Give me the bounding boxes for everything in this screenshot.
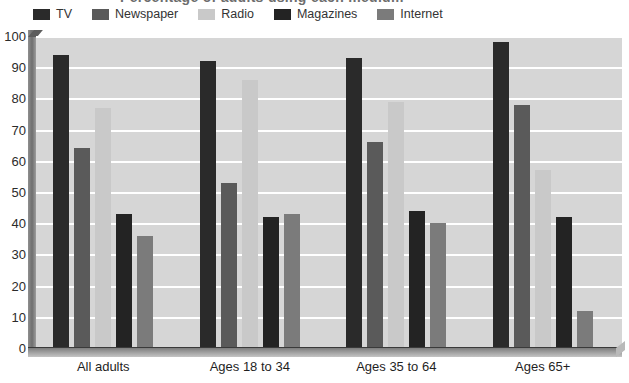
x-tick-label: Ages 35 to 64 (356, 360, 436, 373)
bar-group (476, 36, 623, 348)
bar-tv-ages-65-[interactable] (493, 42, 509, 348)
legend-label: Magazines (297, 8, 357, 21)
legend-label: Radio (221, 8, 254, 21)
legend-swatch-icon (198, 9, 215, 20)
legend-item-radio[interactable]: Radio (198, 8, 254, 21)
chart-legend: TVNewspaperRadioMagazinesInternet (33, 5, 463, 23)
y-tick-label: 60 (12, 154, 26, 167)
y-tick-label: 80 (12, 92, 26, 105)
bar-group (183, 36, 330, 348)
legend-swatch-icon (92, 9, 109, 20)
bar-magazines-ages-35-to-64[interactable] (409, 211, 425, 348)
y-tick-label: 90 (12, 61, 26, 74)
y-tick-label: 0 (19, 342, 26, 355)
bars-layer (36, 36, 622, 348)
bar-radio-all-adults[interactable] (95, 108, 111, 348)
y-tick-label: 50 (12, 186, 26, 199)
legend-item-newspaper[interactable]: Newspaper (92, 8, 178, 21)
bar-internet-all-adults[interactable] (137, 236, 153, 348)
y-axis-labels: 0102030405060708090100 (0, 0, 28, 383)
bar-magazines-ages-65-[interactable] (556, 217, 572, 348)
bar-newspaper-ages-65-[interactable] (514, 105, 530, 348)
bar-internet-ages-18-to-34[interactable] (284, 214, 300, 348)
bar-internet-ages-65-[interactable] (577, 311, 593, 348)
legend-label: Newspaper (115, 8, 178, 21)
x-tick-label: Ages 65+ (515, 360, 570, 373)
bar-tv-ages-18-to-34[interactable] (200, 61, 216, 348)
legend-item-tv[interactable]: TV (33, 8, 72, 21)
y-tick-label: 20 (12, 279, 26, 292)
bar-internet-ages-35-to-64[interactable] (430, 223, 446, 348)
legend-item-magazines[interactable]: Magazines (274, 8, 357, 21)
legend-label: Internet (400, 8, 442, 21)
bar-chart: Percentage of adults using each medium T… (0, 0, 629, 383)
y-tick-label: 70 (12, 123, 26, 136)
bar-magazines-all-adults[interactable] (116, 214, 132, 348)
legend-label: TV (56, 8, 72, 21)
bar-tv-ages-35-to-64[interactable] (346, 58, 362, 348)
legend-swatch-icon (33, 9, 50, 20)
y-tick-label: 10 (12, 310, 26, 323)
x-tick-label: Ages 18 to 34 (210, 360, 290, 373)
legend-swatch-icon (377, 9, 394, 20)
bar-tv-all-adults[interactable] (53, 55, 69, 348)
bar-group (329, 36, 476, 348)
bar-newspaper-ages-18-to-34[interactable] (221, 183, 237, 348)
bar-newspaper-all-adults[interactable] (74, 148, 90, 348)
x-axis-floor (28, 348, 622, 357)
x-axis-labels: All adultsAges 18 to 34Ages 35 to 64Ages… (36, 360, 622, 380)
plot-area (36, 36, 622, 348)
legend-swatch-icon (274, 9, 291, 20)
bar-radio-ages-35-to-64[interactable] (388, 102, 404, 348)
plot-wrapper (36, 36, 622, 348)
bar-magazines-ages-18-to-34[interactable] (263, 217, 279, 348)
y-tick-label: 40 (12, 217, 26, 230)
y-tick-label: 30 (12, 248, 26, 261)
bar-group (36, 36, 183, 348)
bar-newspaper-ages-35-to-64[interactable] (367, 142, 383, 348)
legend-item-internet[interactable]: Internet (377, 8, 442, 21)
y-tick-label: 100 (4, 30, 26, 43)
x-tick-label: All adults (77, 360, 130, 373)
bar-radio-ages-18-to-34[interactable] (242, 80, 258, 348)
bar-radio-ages-65-[interactable] (535, 170, 551, 348)
